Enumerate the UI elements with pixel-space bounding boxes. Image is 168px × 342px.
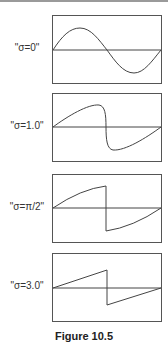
top-border-line — [0, 0, 168, 2]
plot-panel-sigma-pi-2 — [52, 174, 162, 243]
sine-wave-plot — [53, 16, 161, 83]
panel-label-sigma-1: "σ=1.0" — [4, 120, 50, 131]
panel-label-sigma-pi-2: "σ=π/2" — [4, 201, 50, 212]
panel-label-sigma-0: "σ=0" — [4, 42, 50, 53]
shock-wave-plot — [53, 175, 161, 242]
plot-panel-sigma-1 — [52, 93, 162, 162]
panel-label-sigma-3: "σ=3.0" — [4, 280, 50, 291]
plot-panel-sigma-0 — [52, 15, 162, 84]
figure-caption: Figure 10.5 — [0, 330, 168, 342]
steepened-wave-plot — [53, 94, 161, 161]
sawtooth-wave-plot — [53, 254, 161, 321]
plot-panel-sigma-3 — [52, 253, 162, 322]
